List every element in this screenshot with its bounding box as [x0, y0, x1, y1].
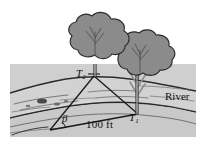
- label-angle-beta: β: [62, 113, 67, 124]
- tree-far-canopy: [69, 12, 129, 58]
- water-rock: [64, 100, 68, 102]
- label-tree-far-t2: T2: [76, 68, 86, 81]
- water-rock: [26, 105, 31, 107]
- water-rock: [54, 103, 60, 106]
- label-tree-near-t1: T1: [129, 112, 139, 125]
- label-river: River: [165, 91, 189, 102]
- label-baseline-distance: 100 ft: [86, 119, 113, 130]
- river-triangulation-figure: T2 T1 β 100 ft River: [0, 0, 205, 150]
- water-rock: [37, 98, 47, 103]
